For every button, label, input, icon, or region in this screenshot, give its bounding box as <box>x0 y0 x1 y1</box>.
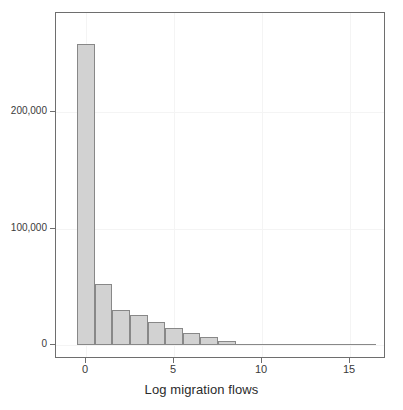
x-tick-label: 10 <box>255 364 267 375</box>
histogram-bar <box>200 337 218 345</box>
histogram-bar <box>165 328 183 345</box>
histogram-bar <box>271 344 289 345</box>
y-tick-label: 0 <box>41 339 47 349</box>
histogram-bar <box>306 344 324 345</box>
histogram-bar <box>253 344 271 345</box>
gridline-vertical <box>174 13 175 357</box>
y-tick-label: 100,000 <box>11 223 47 233</box>
gridline-horizontal <box>56 112 384 113</box>
gridline-vertical <box>262 13 263 357</box>
histogram-bar <box>148 322 166 345</box>
histogram-bar <box>95 284 113 345</box>
histogram-bar <box>130 315 148 345</box>
histogram-bar <box>288 344 306 345</box>
gridline-horizontal <box>56 229 384 230</box>
x-tick-label: 0 <box>82 364 88 375</box>
histogram-bar <box>324 344 342 345</box>
histogram-bar <box>183 333 201 345</box>
histogram-bar <box>236 343 254 345</box>
histogram-bar <box>359 344 377 345</box>
x-tick-label: 5 <box>170 364 176 375</box>
histogram-bar <box>218 341 236 345</box>
gridline-vertical <box>350 13 351 357</box>
gridline-horizontal <box>56 345 384 346</box>
histogram-bar <box>77 44 95 345</box>
x-axis-title: Log migration flows <box>0 382 403 397</box>
plot-panel <box>55 12 385 358</box>
histogram-bar <box>341 344 359 345</box>
y-tick-label: 200,000 <box>11 106 47 116</box>
x-tick-label: 15 <box>343 364 355 375</box>
histogram-bar <box>112 310 130 345</box>
histogram-figure: 0100,000200,000 051015 Log migration flo… <box>0 0 403 410</box>
